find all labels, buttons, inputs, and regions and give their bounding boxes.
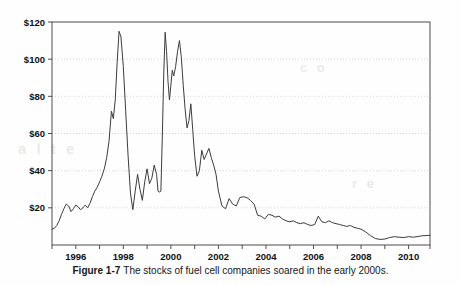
- gridlines-group: [52, 59, 430, 208]
- y-axis-tick-label: $60: [29, 128, 45, 139]
- y-axis-tick-label: $80: [29, 91, 45, 102]
- y-axis-labels: $20$40$60$80$100$120: [24, 17, 45, 214]
- x-axis-tick-label: 1996: [65, 251, 86, 262]
- x-axis-tick-label: 2006: [303, 251, 324, 262]
- figure-container: a l t e c o r e $20$40$60$80$100$120 199…: [0, 0, 461, 285]
- tick-marks-group: [48, 22, 430, 249]
- x-axis-tick-label: 2008: [350, 251, 371, 262]
- y-axis-tick-label: $100: [24, 54, 45, 65]
- x-axis-tick-label: 1998: [113, 251, 134, 262]
- y-axis-tick-label: $120: [24, 17, 45, 28]
- stock-price-line-chart: $20$40$60$80$100$120 1996199820002002200…: [0, 0, 461, 265]
- y-axis-tick-label: $40: [29, 165, 45, 176]
- x-axis-tick-label: 2002: [208, 251, 229, 262]
- x-axis-tick-label: 2004: [255, 251, 277, 262]
- y-axis-tick-label: $20: [29, 202, 45, 213]
- figure-caption-text: The stocks of fuel cell companies soared…: [123, 265, 388, 276]
- figure-caption-label: Figure 1-7: [73, 265, 121, 276]
- x-axis-tick-label: 2000: [160, 251, 181, 262]
- figure-caption: Figure 1-7The stocks of fuel cell compan…: [0, 265, 461, 276]
- x-axis-labels: 19961998200020022004200620082010: [65, 251, 419, 262]
- x-axis-tick-label: 2010: [398, 251, 419, 262]
